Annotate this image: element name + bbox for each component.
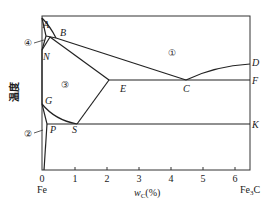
x-tick-3: 3 — [137, 173, 142, 184]
region-4: ④ — [24, 38, 32, 48]
x-tick-6: 6 — [233, 173, 238, 184]
point-D: D — [251, 57, 260, 68]
x-left-end-label: Fe — [37, 184, 48, 195]
line-JE — [50, 37, 109, 80]
point-S: S — [72, 124, 77, 135]
point-B: B — [60, 27, 66, 38]
x-tick-0: 0 — [40, 173, 45, 184]
region-3: ③ — [61, 80, 69, 90]
point-K: K — [251, 119, 260, 130]
point-N: N — [42, 51, 51, 62]
line-PQ — [44, 124, 47, 170]
point-C: C — [183, 83, 190, 94]
x-axis-label: wC(%) — [134, 187, 160, 200]
line-GS — [42, 104, 77, 124]
point-G: G — [45, 95, 52, 106]
phase-diagram: A B N E C D F G P S K ① ② ③ ④ 温度 0 1 2 3… — [0, 0, 273, 209]
line-JN — [42, 37, 50, 50]
line-ES — [77, 80, 109, 124]
point-P: P — [49, 124, 56, 135]
point-E: E — [119, 83, 126, 94]
region-1: ① — [168, 48, 176, 58]
x-tick-1: 1 — [73, 173, 78, 184]
x-tick-4: 4 — [169, 173, 174, 184]
region-2: ② — [24, 129, 32, 139]
point-A: A — [42, 19, 50, 30]
phase-lines — [42, 18, 250, 170]
plot-frame — [42, 16, 250, 170]
x-tick-2: 2 — [105, 173, 110, 184]
y-axis-label: 温度 — [8, 81, 20, 102]
x-right-end-label: Fe3C — [240, 184, 261, 197]
line-BC — [56, 38, 186, 80]
line-CD — [186, 64, 250, 80]
point-F: F — [251, 75, 259, 86]
x-tick-5: 5 — [201, 173, 206, 184]
